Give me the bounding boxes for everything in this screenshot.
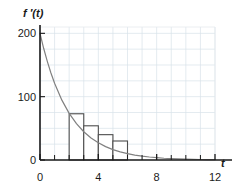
x-tick-label: 8 — [143, 172, 171, 183]
y-axis-title: f ′(t) — [23, 8, 43, 19]
x-tick-label: 12 — [201, 172, 229, 183]
y-tick-label: 0 — [2, 155, 36, 166]
x-tick-label: 0 — [26, 172, 54, 183]
y-tick-label: 200 — [2, 28, 36, 39]
y-tick-label: 100 — [2, 92, 36, 103]
gridlines — [40, 27, 215, 160]
chart-figure: f ′(t) t 0100200 04812 — [0, 0, 237, 194]
x-tick-label: 4 — [84, 172, 112, 183]
x-axis-title: t — [221, 158, 225, 169]
